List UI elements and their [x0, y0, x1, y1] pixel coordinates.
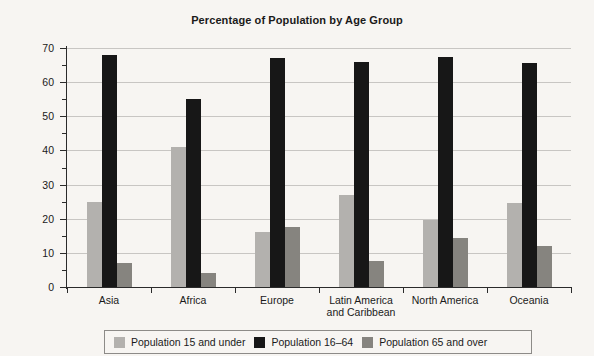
y-axis-tick-label: 60: [14, 77, 54, 88]
gridline: [67, 185, 571, 186]
bar: [102, 55, 117, 287]
gridline: [67, 48, 571, 49]
y-axis-tick-label: 40: [14, 145, 54, 156]
bar-group: [339, 48, 384, 287]
bar: [270, 58, 285, 287]
x-axis-category-label: Oceania: [474, 295, 584, 307]
x-axis-tick: [67, 287, 68, 293]
bar: [453, 238, 468, 288]
bar: [339, 195, 354, 287]
bar: [522, 63, 537, 287]
bar: [201, 273, 216, 287]
legend-label: Population 16–64: [271, 336, 353, 348]
bar: [537, 246, 552, 287]
x-axis-tick: [235, 287, 236, 293]
bar: [255, 232, 270, 287]
bar: [186, 99, 201, 287]
chart-legend: Population 15 and underPopulation 16–64P…: [104, 330, 532, 354]
y-axis-tick-label: 20: [14, 214, 54, 225]
gridline: [67, 150, 571, 151]
gridline: [67, 219, 571, 220]
x-axis-category-label-line: and Caribbean: [306, 307, 416, 319]
legend-label: Population 65 and over: [379, 336, 487, 348]
legend-label: Population 15 and under: [131, 336, 245, 348]
bar: [285, 227, 300, 287]
y-axis-tick-label: 0: [14, 282, 54, 293]
bar-group: [87, 48, 132, 287]
plot-area: [67, 48, 571, 287]
legend-entry: Population 15 and under: [114, 336, 245, 348]
bar: [423, 220, 438, 287]
bar: [87, 202, 102, 287]
bar: [354, 62, 369, 287]
y-axis-line: [66, 46, 67, 289]
bar: [507, 203, 522, 287]
gridline: [67, 82, 571, 83]
y-axis-tick-label: 30: [14, 180, 54, 191]
legend-entry: Population 65 and over: [362, 336, 487, 348]
y-axis-tick-label: 10: [14, 248, 54, 259]
bar: [369, 261, 384, 287]
y-axis-tick-label: 70: [14, 43, 54, 54]
x-axis-tick: [151, 287, 152, 293]
bar-group: [255, 48, 300, 287]
legend-swatch: [114, 337, 125, 348]
x-axis-tick: [319, 287, 320, 293]
bar-group: [423, 48, 468, 287]
legend-entry: Population 16–64: [254, 336, 353, 348]
bar-group: [171, 48, 216, 287]
y-axis-tick-label: 50: [14, 111, 54, 122]
bar-chart: Percentage of Population by Age Group 01…: [0, 0, 594, 356]
legend-swatch: [362, 337, 373, 348]
bar: [117, 263, 132, 287]
gridline: [67, 116, 571, 117]
bar: [171, 147, 186, 287]
bar-group: [507, 48, 552, 287]
x-axis-category-label-line: Oceania: [474, 295, 584, 307]
x-axis-tick: [403, 287, 404, 293]
legend-swatch: [254, 337, 265, 348]
chart-title: Percentage of Population by Age Group: [0, 14, 594, 26]
bar: [438, 57, 453, 287]
x-axis-tick: [571, 287, 572, 293]
gridline: [67, 253, 571, 254]
x-axis-tick: [487, 287, 488, 293]
